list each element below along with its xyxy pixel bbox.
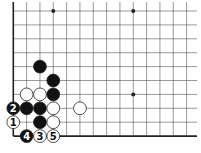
move-number-label: 2 — [10, 103, 17, 114]
star-point — [131, 9, 135, 13]
move-number-label: 5 — [50, 131, 57, 142]
go-board-diagram: 21435 — [0, 0, 201, 153]
white-stone: 3 — [34, 130, 47, 143]
move-number-label: 1 — [10, 117, 17, 128]
white-stone: 5 — [47, 130, 60, 143]
move-number-label: 3 — [36, 131, 43, 142]
black-stone — [47, 74, 60, 87]
stones: 21435 — [7, 60, 86, 142]
black-stone — [34, 116, 47, 129]
white-stone: 1 — [7, 116, 20, 129]
star-point — [51, 9, 55, 13]
move-number-label: 4 — [23, 131, 30, 142]
star-point — [131, 92, 135, 96]
white-stone — [74, 102, 87, 115]
go-board-svg: 21435 — [0, 0, 201, 153]
white-stone — [47, 116, 60, 129]
black-stone — [34, 60, 47, 73]
black-stone — [20, 102, 33, 115]
black-stone — [47, 88, 60, 101]
black-stone — [34, 102, 47, 115]
white-stone — [47, 102, 60, 115]
black-stone: 2 — [7, 102, 20, 115]
white-stone — [20, 88, 33, 101]
white-stone — [34, 88, 47, 101]
black-stone: 4 — [20, 130, 33, 143]
